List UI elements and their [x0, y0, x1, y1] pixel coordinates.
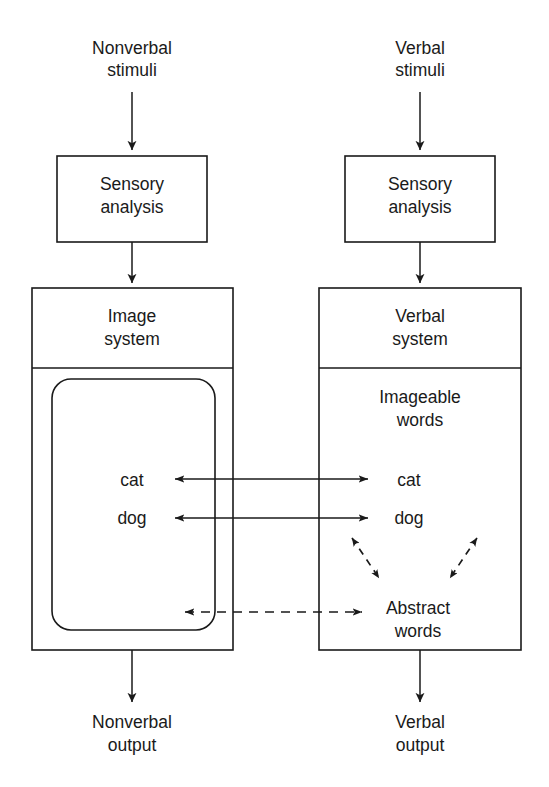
verbal-column: Verbal stimuli Sensory analysis Verbal s… [319, 38, 521, 755]
nonverbal-output-label: Nonverbal output [92, 712, 172, 755]
verbal-stimuli-line2: stimuli [395, 60, 445, 80]
connection-abstract-imageable-right [450, 538, 477, 578]
verbal-sensory-analysis-label: Sensory analysis [388, 174, 452, 217]
verbal-output-line2: output [396, 735, 445, 755]
nonverbal-stimuli-label: Nonverbal stimuli [92, 38, 172, 80]
verbal-system-line2: system [392, 329, 447, 349]
image-store-rounded-container [52, 379, 215, 630]
verbal-output-line1: Verbal [395, 712, 445, 732]
dual-coding-diagram: Nonverbal stimuli Sensory analysis Image… [0, 0, 549, 787]
cross-system-connections [175, 479, 477, 612]
nonverbal-output-line2: output [108, 735, 157, 755]
image-word-dog: dog [117, 508, 146, 528]
nonverbal-stimuli-line1: Nonverbal [92, 38, 172, 58]
nonverbal-output-line1: Nonverbal [92, 712, 172, 732]
image-system-line1: Image [108, 306, 157, 326]
nonverbal-stimuli-line2: stimuli [107, 60, 157, 80]
verbal-output-label: Verbal output [395, 712, 445, 755]
verbal-sensory-line2: analysis [388, 197, 451, 217]
nonverbal-sensory-analysis-label: Sensory analysis [100, 174, 164, 217]
verbal-word-cat: cat [397, 470, 420, 490]
imageable-words-label: Imageable words [379, 387, 461, 430]
nonverbal-sensory-line2: analysis [100, 197, 163, 217]
abstract-words-label: Abstract words [386, 598, 450, 641]
verbal-word-dog: dog [394, 508, 423, 528]
imageable-words-line1: Imageable [379, 387, 461, 407]
verbal-stimuli-line1: Verbal [395, 38, 445, 58]
imageable-words-line2: words [396, 410, 444, 430]
verbal-system-label: Verbal system [392, 306, 447, 349]
abstract-words-line1: Abstract [386, 598, 450, 618]
verbal-sensory-line1: Sensory [388, 174, 452, 194]
nonverbal-column: Nonverbal stimuli Sensory analysis Image… [32, 38, 233, 755]
abstract-words-line2: words [394, 621, 442, 641]
image-system-line2: system [104, 329, 159, 349]
connection-abstract-imageable-left [352, 538, 379, 578]
verbal-stimuli-label: Verbal stimuli [395, 38, 445, 80]
verbal-system-line1: Verbal [395, 306, 445, 326]
nonverbal-sensory-line1: Sensory [100, 174, 164, 194]
image-word-cat: cat [120, 470, 143, 490]
diagram-canvas: Nonverbal stimuli Sensory analysis Image… [0, 0, 549, 787]
image-system-label: Image system [104, 306, 159, 349]
